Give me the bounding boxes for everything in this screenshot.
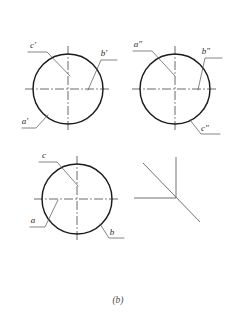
label-c-prime: c': [30, 40, 37, 50]
top-view: c a b: [30, 150, 124, 242]
side-view: a" b" c": [132, 39, 222, 134]
technical-drawing-figure: c' b' a' a" b" c": [0, 0, 242, 322]
label-a-double-prime: a": [134, 39, 143, 49]
label-c: c: [42, 150, 46, 160]
label-b: b: [110, 227, 115, 237]
axis-triad: [134, 157, 200, 222]
front-view: c' b' a': [22, 40, 117, 132]
drawing-canvas: c' b' a' a" b" c": [0, 0, 242, 322]
label-a: a: [31, 215, 36, 225]
label-a-prime: a': [22, 116, 30, 126]
label-b-double-prime: b": [202, 46, 211, 56]
axis-diagonal-line: [143, 163, 200, 222]
label-b-prime: b': [101, 48, 109, 58]
front-view-leader-c-prime: [28, 52, 70, 76]
label-c-double-prime: c": [201, 123, 209, 133]
top-view-leader-c: [39, 162, 78, 186]
figure-caption: (b): [112, 295, 123, 306]
